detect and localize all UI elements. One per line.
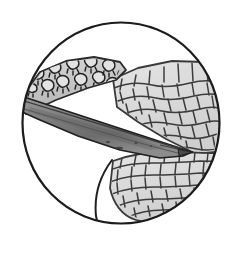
circular-illustration bbox=[0, 0, 244, 253]
illustration-root: Circular endoscopic illustration of tiss… bbox=[0, 0, 244, 253]
